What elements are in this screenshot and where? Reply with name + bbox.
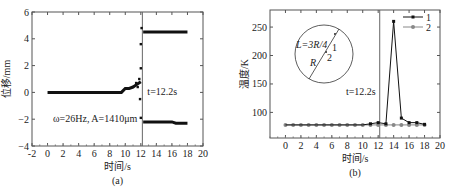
- y-tick-label: 100: [252, 107, 267, 118]
- series-1-line: [285, 21, 424, 125]
- data-point: [140, 117, 142, 119]
- data-point: [140, 43, 142, 45]
- series-2-point: [392, 123, 396, 127]
- series-1-point: [415, 121, 418, 124]
- series-1-point: [408, 121, 411, 124]
- data-point: [138, 78, 140, 80]
- x-tick-label: 10: [358, 140, 368, 151]
- series-1-point: [400, 117, 403, 120]
- series-1-point: [377, 121, 380, 124]
- x-axis-label: 时间/s: [342, 152, 369, 164]
- x-tick-label: 8: [107, 148, 112, 159]
- x-tick-label: 0: [283, 140, 288, 151]
- legend-marker-2: [411, 25, 415, 29]
- chart-b-plot-frame: [270, 10, 440, 138]
- data-point: [139, 98, 141, 100]
- data-point: [140, 67, 142, 69]
- y-tick-label: −2: [18, 114, 29, 125]
- series-1-point: [369, 122, 372, 125]
- panel-label: (a): [112, 175, 123, 187]
- inset-label-R: R: [309, 57, 316, 68]
- legend-marker-1: [412, 16, 415, 19]
- series-1-point: [392, 20, 395, 23]
- figure: -202468101214161820−4−20246时间/s(a)位移/mmt…: [0, 0, 451, 190]
- x-tick-label: 0: [45, 148, 50, 159]
- series-1-point: [423, 123, 426, 126]
- data-point: [135, 82, 137, 84]
- x-tick-label: 14: [151, 148, 161, 159]
- chart-a: -202468101214161820−4−20246时间/s(a)位移/mmt…: [0, 0, 225, 190]
- x-tick-label: 2: [298, 140, 303, 151]
- panel-label: (b): [349, 167, 361, 179]
- y-axis-label: 温度/K: [238, 58, 250, 89]
- legend-label-2: 2: [426, 22, 431, 33]
- y-axis-label: 位移/mm: [0, 60, 12, 99]
- inset-label-L: L=3R/4: [295, 39, 327, 50]
- series-2-point: [399, 123, 403, 127]
- x-tick-label: 16: [404, 140, 414, 151]
- data-point: [137, 86, 139, 88]
- x-tick-label: 8: [345, 140, 350, 151]
- x-tick-label: 18: [420, 140, 430, 151]
- inset-label-1: 1: [332, 42, 337, 53]
- x-tick-label: 2: [61, 148, 66, 159]
- x-tick-label: 20: [198, 148, 208, 159]
- chart-b: 02468101214161820100150200250时间/s(b)温度/K…: [225, 0, 451, 190]
- y-tick-label: 0: [24, 87, 29, 98]
- time-annotation: t=12.2s: [346, 86, 376, 97]
- series-1-point: [384, 122, 387, 125]
- y-tick-label: 2: [24, 60, 29, 71]
- data-point: [140, 27, 142, 29]
- x-tick-label: 18: [182, 148, 192, 159]
- x-tick-label: 10: [120, 148, 130, 159]
- y-tick-label: 250: [252, 22, 267, 33]
- y-tick-label: 200: [252, 50, 267, 61]
- y-tick-label: 6: [24, 7, 29, 18]
- inset-radius-line: [309, 29, 339, 79]
- time-annotation: t=12.2s: [147, 86, 177, 97]
- y-tick-label: −4: [18, 141, 29, 152]
- x-tick-label: 16: [167, 148, 177, 159]
- condition-annotation: ω=26Hz, A=1410μm: [53, 113, 138, 124]
- x-tick-label: 14: [389, 140, 399, 151]
- x-tick-label: -2: [28, 148, 36, 159]
- x-tick-label: 6: [329, 140, 334, 151]
- y-tick-label: 150: [252, 78, 267, 89]
- x-tick-label: 20: [435, 140, 445, 151]
- y-tick-label: 4: [24, 33, 29, 44]
- displacement-trace-lower: [143, 122, 187, 123]
- inset-label-2: 2: [327, 52, 332, 63]
- x-tick-label: 4: [76, 148, 81, 159]
- x-tick-label: 12: [136, 148, 146, 159]
- x-tick-label: 12: [373, 140, 383, 151]
- x-tick-label: 6: [92, 148, 97, 159]
- displacement-trace-pre: [48, 82, 141, 93]
- x-axis-label: 时间/s: [104, 160, 131, 172]
- x-tick-label: 4: [314, 140, 319, 151]
- sensor-point-1: [334, 33, 336, 35]
